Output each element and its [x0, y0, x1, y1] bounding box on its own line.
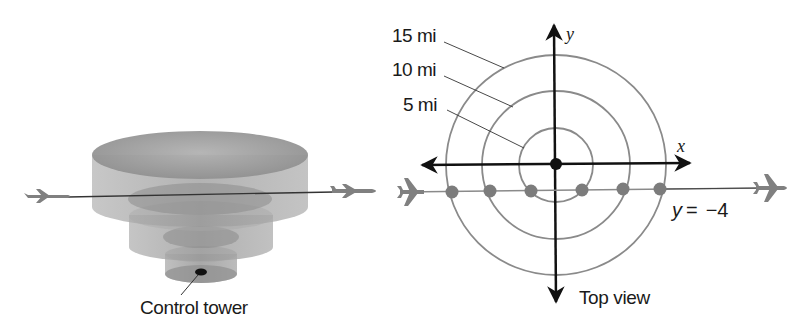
airplane-icon [753, 174, 787, 202]
cylinder-15mi [92, 131, 308, 227]
ring-label-10mi: 10 mi [392, 59, 436, 81]
control-tower-marker [195, 269, 207, 276]
flight-line-equation: y=−4 [672, 199, 729, 222]
ring-label-5mi: 5 mi [403, 94, 437, 116]
intersection-point [576, 184, 589, 197]
y-axis-label: y [566, 24, 574, 45]
x-axis-label: x [677, 136, 685, 157]
leader-10mi [444, 76, 513, 107]
cylinder-stack [92, 131, 308, 295]
intersection-point [617, 183, 630, 196]
intersection-point [654, 183, 667, 196]
control-tower-label: Control tower [140, 297, 248, 319]
equation-op: = [686, 199, 698, 221]
airplane-icon [397, 178, 424, 206]
airplane-icon [330, 184, 376, 198]
intersection-point [446, 186, 459, 199]
airspace-diagram: Control tower 15 mi 10 mi 5 mi y x y=−4 … [0, 0, 810, 330]
origin-point [550, 158, 562, 170]
ring-label-15mi: 15 mi [392, 25, 436, 47]
intersection-point [484, 185, 497, 198]
airplane-icon [24, 189, 70, 203]
top-view [397, 25, 787, 302]
equation-rhs: −4 [706, 199, 729, 221]
leader-15mi [444, 42, 504, 68]
equation-lhs: y [672, 199, 682, 221]
intersection-point [525, 185, 538, 198]
top-view-label: Top view [579, 287, 650, 309]
